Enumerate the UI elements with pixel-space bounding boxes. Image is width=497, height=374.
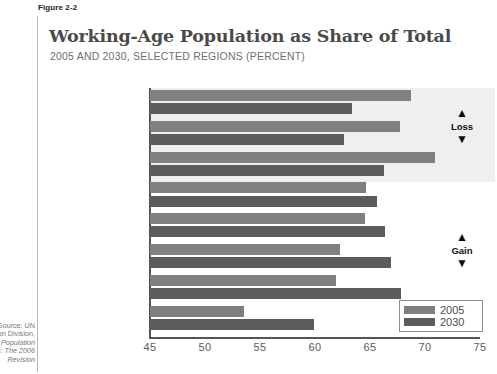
annotation-loss: ▲ Loss ▼: [440, 108, 484, 145]
chart-subtitle: 2005 AND 2030, SELECTED REGIONS (PERCENT…: [50, 50, 305, 62]
bar-2005-europe: [150, 90, 411, 101]
x-tick-70: 70: [419, 341, 432, 353]
legend-swatch-2005: [404, 306, 435, 314]
bar-2005-sub-saharan-africa: [150, 306, 244, 317]
legend-item-2030: 2030: [404, 316, 478, 328]
x-tick-60: 60: [309, 341, 322, 353]
bar-2030-world: [150, 196, 377, 207]
bar-2005-northern-america: [150, 121, 400, 132]
x-tick-55: 55: [254, 341, 267, 353]
bar-2030-mena: [150, 257, 391, 268]
bar-2005-east-asia: [150, 152, 435, 163]
source-note: Source: UN tion Division, ld Population …: [0, 322, 35, 364]
bar-2030-east-asia: [150, 165, 384, 176]
bar-2005-south-central-asia: [150, 275, 336, 286]
legend-swatch-2030: [404, 318, 435, 326]
x-tick-45: 45: [144, 341, 157, 353]
bar-2030-south-central-asia: [150, 288, 401, 299]
legend-label-2005: 2005: [440, 304, 464, 316]
bar-2005-south-america: [150, 213, 365, 224]
bar-2005-world: [150, 182, 366, 193]
x-tick-50: 50: [199, 341, 212, 353]
triangle-up-icon: ▲: [440, 108, 484, 119]
bar-2005-mena: [150, 244, 340, 255]
triangle-down-icon: ▼: [440, 134, 484, 145]
figure-number: Figure 2-2: [38, 3, 77, 12]
legend-label-2030: 2030: [440, 316, 464, 328]
triangle-up-icon: ▲: [440, 232, 484, 243]
source-line-5: Revision: [0, 356, 35, 364]
x-axis-line: [149, 337, 480, 339]
bar-2030-europe: [150, 103, 352, 114]
legend: 2005 2030: [399, 300, 483, 332]
bar-2030-south-america: [150, 226, 385, 237]
chart-title: Working-Age Population as Share of Total: [49, 26, 451, 46]
x-tick-65: 65: [364, 341, 377, 353]
triangle-down-icon: ▼: [440, 258, 484, 269]
figure-container: Figure 2-2 Working-Age Population as Sha…: [0, 0, 497, 374]
bar-2030-sub-saharan-africa: [150, 319, 314, 330]
bar-2030-northern-america: [150, 134, 344, 145]
x-tick-75: 75: [474, 341, 487, 353]
annotation-gain: ▲ Gain ▼: [440, 232, 484, 269]
legend-item-2005: 2005: [404, 304, 478, 316]
